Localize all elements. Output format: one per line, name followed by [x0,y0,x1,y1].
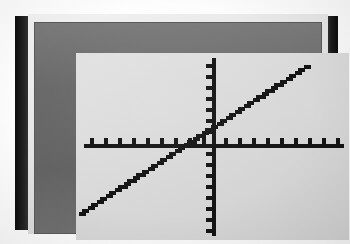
y-axis [212,58,216,236]
plot-pixel [307,65,311,69]
calculator-screen-frame [34,22,322,234]
graph-canvas [76,53,349,240]
calculator-lcd-screen[interactable] [76,53,349,240]
plotted-line-series [79,65,311,216]
calculator-photo [0,0,350,244]
y-axis-ticks [206,64,212,233]
